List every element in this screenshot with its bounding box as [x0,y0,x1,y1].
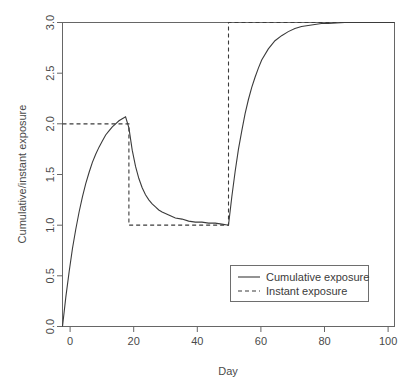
y-axis-title: Cumulative/instant exposure [16,105,28,244]
x-tick-label-3: 60 [255,335,267,347]
legend-label-cumulative: Cumulative exposure [266,271,369,283]
x-tick-label-1: 20 [128,335,140,347]
y-tick-label-4: 2.0 [44,116,56,131]
y-tick-label-5: 2.5 [44,66,56,81]
x-tick-label-2: 40 [191,335,203,347]
chart-legend: Cumulative exposure Instant exposure [231,266,370,302]
y-tick-label-1: 0.5 [44,268,56,283]
x-tick-label-5: 100 [379,335,397,347]
y-tick-label-2: 1.0 [44,218,56,233]
y-tick-label-0: 0.0 [44,319,56,334]
x-axis-title: Day [218,365,238,377]
y-tick-label-3: 1.5 [44,167,56,182]
y-tick-label-6: 3.0 [44,15,56,30]
legend-label-instant: Instant exposure [266,285,347,297]
x-tick-label-4: 80 [318,335,330,347]
chart-figure: 0.0 0.5 1.0 1.5 2.0 2.5 3.0 0 20 40 60 8… [0,0,420,389]
x-tick-label-0: 0 [67,335,73,347]
exposure-line-chart: 0.0 0.5 1.0 1.5 2.0 2.5 3.0 0 20 40 60 8… [0,0,420,389]
